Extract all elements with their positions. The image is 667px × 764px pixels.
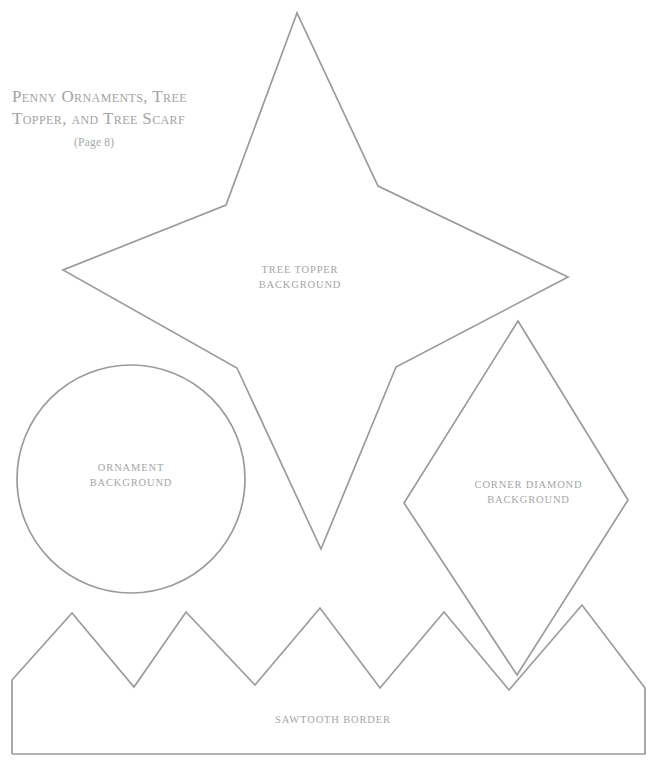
page-number-note: (Page 8) bbox=[74, 136, 252, 148]
sheet-title-block: Penny Ornaments, Tree Topper, and Tree S… bbox=[12, 86, 252, 148]
sheet-title-line-2: Topper, and Tree Scarf bbox=[12, 108, 252, 130]
sheet-title-line-1: Penny Ornaments, Tree bbox=[12, 86, 252, 108]
pattern-sheet-page: Penny Ornaments, Tree Topper, and Tree S… bbox=[0, 0, 667, 764]
ornament-circle-outline[interactable] bbox=[17, 365, 245, 593]
sawtooth-border-outline[interactable] bbox=[12, 605, 645, 754]
